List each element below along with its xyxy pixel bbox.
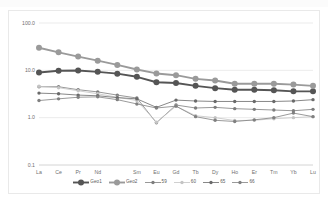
data-point	[57, 92, 60, 95]
chart-legend: Geo1Geo259606566	[8, 174, 320, 190]
data-point	[36, 69, 42, 75]
data-point	[271, 81, 277, 87]
data-point	[271, 87, 277, 93]
data-point	[290, 82, 296, 88]
legend-swatch-icon	[174, 179, 190, 186]
data-point	[272, 100, 275, 103]
legend-label: Geo2	[126, 180, 138, 185]
y-tick-label: 1.0	[28, 114, 35, 120]
data-point	[233, 107, 236, 110]
data-point	[76, 89, 79, 92]
data-point	[153, 70, 159, 76]
data-point	[311, 115, 314, 118]
legend-item-66[interactable]: 66	[232, 179, 254, 186]
data-point	[253, 100, 256, 103]
data-point	[194, 115, 197, 118]
legend-label: 65	[220, 180, 225, 185]
data-point	[155, 106, 158, 109]
data-point	[95, 58, 101, 64]
data-point	[75, 54, 81, 60]
data-point	[134, 67, 140, 73]
data-point	[155, 121, 158, 124]
data-point	[292, 111, 295, 114]
data-point	[57, 97, 60, 100]
data-point	[193, 83, 199, 89]
ree-spider-chart: 100.010.01.00.1LaCePrNdSmEuGdTbDyHoErTmY…	[9, 11, 321, 195]
data-point	[251, 81, 257, 87]
data-point	[232, 81, 238, 87]
data-point	[233, 100, 236, 103]
legend-swatch-icon	[232, 179, 248, 186]
y-tick-label: 100.0	[22, 20, 35, 26]
data-point	[213, 100, 216, 103]
legend-label: Geo1	[90, 180, 102, 185]
data-point	[212, 85, 218, 91]
data-point	[253, 108, 256, 111]
data-point	[134, 74, 140, 80]
data-point	[173, 72, 179, 78]
legend-item-Geo2[interactable]: Geo2	[109, 179, 138, 186]
legend-label: 59	[162, 180, 167, 185]
legend-label: 66	[249, 180, 254, 185]
data-point	[272, 116, 275, 119]
data-point	[135, 97, 138, 100]
data-point	[75, 68, 81, 74]
data-point	[253, 118, 256, 121]
data-point	[233, 120, 236, 123]
legend-swatch-icon	[109, 179, 125, 186]
data-point	[174, 104, 177, 107]
data-point	[272, 108, 275, 111]
data-point	[212, 77, 218, 83]
data-point	[56, 49, 62, 55]
data-point	[95, 69, 101, 75]
data-point	[36, 45, 42, 51]
data-point	[37, 85, 40, 88]
data-point	[213, 106, 216, 109]
y-tick-label: 0.1	[28, 162, 35, 168]
data-point	[292, 99, 295, 102]
legend-item-Geo1[interactable]: Geo1	[73, 179, 102, 186]
data-point	[76, 96, 79, 99]
chart-plot-frame: 100.010.01.00.1LaCePrNdSmEuGdTbDyHoErTmY…	[8, 10, 320, 194]
legend-item-60[interactable]: 60	[174, 179, 196, 186]
data-point	[114, 71, 120, 77]
legend-item-65[interactable]: 65	[203, 179, 225, 186]
y-tick-label: 10.0	[25, 67, 35, 73]
data-point	[96, 95, 99, 98]
data-point	[213, 119, 216, 122]
data-point	[174, 98, 177, 101]
data-point	[37, 99, 40, 102]
data-point	[116, 98, 119, 101]
data-point	[193, 76, 199, 82]
legend-swatch-icon	[73, 179, 89, 186]
data-point	[311, 108, 314, 111]
data-point	[57, 86, 60, 89]
top-band	[0, 0, 328, 7]
chart-page: 100.010.01.00.1LaCePrNdSmEuGdTbDyHoErTmY…	[0, 0, 328, 201]
data-point	[173, 80, 179, 86]
data-point	[290, 88, 296, 94]
data-point	[310, 88, 316, 94]
data-point	[114, 62, 120, 68]
data-point	[292, 116, 295, 119]
data-point	[311, 98, 314, 101]
data-point	[310, 83, 316, 89]
legend-item-59[interactable]: 59	[145, 179, 167, 186]
legend-swatch-icon	[145, 179, 161, 186]
data-point	[232, 87, 238, 93]
data-point	[135, 102, 138, 105]
legend-label: 60	[191, 180, 196, 185]
data-point	[194, 99, 197, 102]
legend-swatch-icon	[203, 179, 219, 186]
data-point	[194, 106, 197, 109]
data-point	[251, 87, 257, 93]
data-point	[56, 68, 62, 74]
data-point	[37, 91, 40, 94]
data-point	[153, 79, 159, 85]
